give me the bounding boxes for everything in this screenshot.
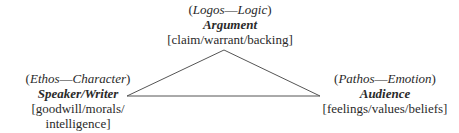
appeal-name: Pathos <box>338 71 374 86</box>
node-title: Speaker/Writer <box>0 86 156 101</box>
appeal-meaning: Emotion <box>388 71 432 86</box>
appeal-name: Ethos <box>30 71 60 86</box>
appeal-label-logos: (Logos—Logic) <box>150 2 310 17</box>
node-title: Argument <box>150 17 310 32</box>
appeal-meaning: Logic <box>238 2 268 17</box>
appeal-name: Logos <box>193 2 225 17</box>
node-elements-line1: [goodwill/morals/ <box>0 101 156 116</box>
appeal-label-ethos: (Ethos—Character) <box>0 71 156 86</box>
dash: — <box>60 71 73 86</box>
node-speaker-writer: (Ethos—Character) Speaker/Writer [goodwi… <box>0 71 156 131</box>
node-audience: (Pathos—Emotion) Audience [feelings/valu… <box>310 71 459 116</box>
node-elements-line2: intelligence] <box>0 116 156 131</box>
node-title: Audience <box>310 86 459 101</box>
dash: — <box>375 71 388 86</box>
node-elements: [feelings/values/beliefs] <box>310 101 459 116</box>
appeal-meaning: Character <box>73 71 126 86</box>
appeal-label-pathos: (Pathos—Emotion) <box>310 71 459 86</box>
node-argument: (Logos—Logic) Argument [claim/warrant/ba… <box>150 2 310 47</box>
dash: — <box>225 2 238 17</box>
node-elements: [claim/warrant/backing] <box>150 32 310 47</box>
